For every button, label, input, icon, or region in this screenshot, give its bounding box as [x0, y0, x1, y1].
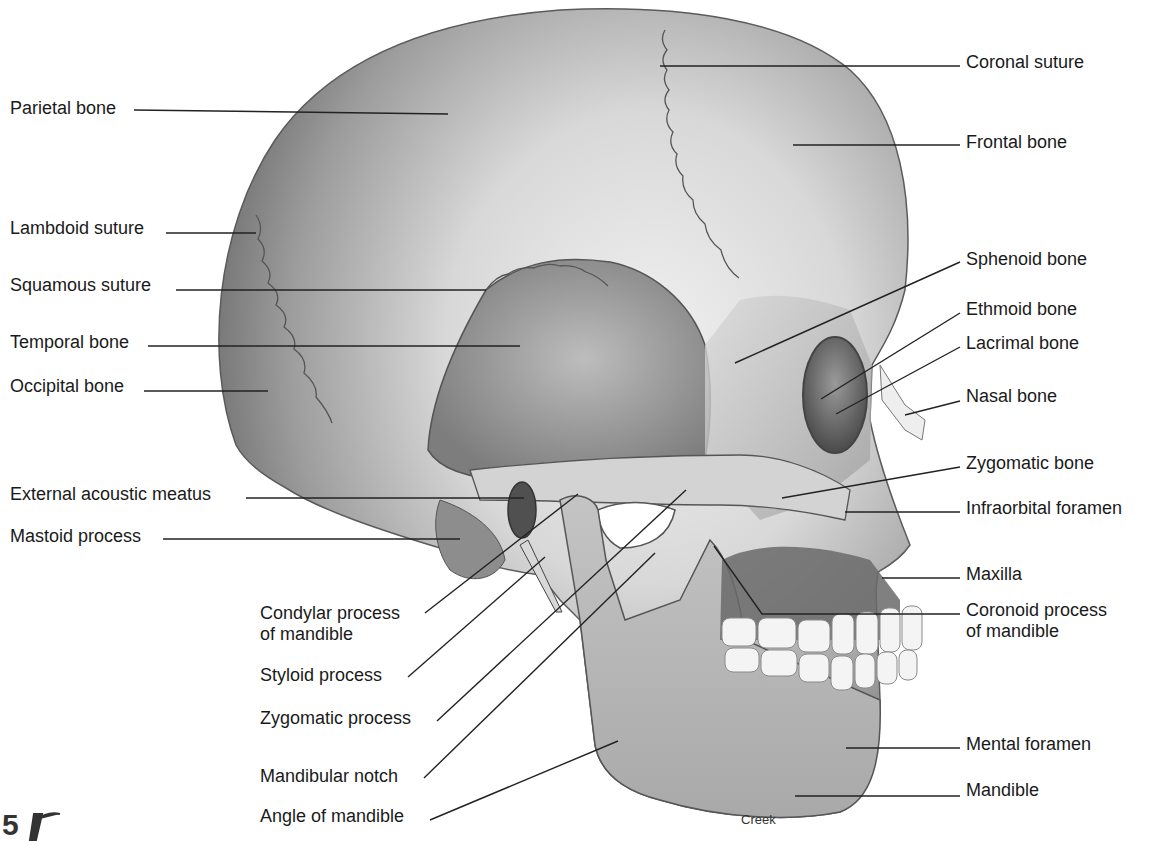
- label-angle-of-mandible: Angle of mandible: [260, 806, 404, 827]
- label-mental-foramen: Mental foramen: [966, 734, 1091, 755]
- label-temporal-bone: Temporal bone: [10, 332, 129, 353]
- label-infraorbital-foramen: Infraorbital foramen: [966, 498, 1122, 519]
- label-mandibular-notch: Mandibular notch: [260, 766, 398, 787]
- illustrator-credit: Creek: [741, 812, 776, 827]
- label-nasal-bone: Nasal bone: [966, 386, 1057, 407]
- label-styloid-process: Styloid process: [260, 665, 382, 686]
- skull-illustration: [0, 0, 1149, 841]
- label-squamous-suture: Squamous suture: [10, 275, 151, 296]
- orbit-shape: [803, 337, 867, 453]
- label-sphenoid-bone: Sphenoid bone: [966, 249, 1087, 270]
- skull-lateral-diagram: Parietal boneLambdoid sutureSquamous sut…: [0, 0, 1149, 841]
- label-mastoid-process: Mastoid process: [10, 526, 141, 547]
- label-lacrimal-bone: Lacrimal bone: [966, 333, 1079, 354]
- nasal-bone-shape: [880, 365, 925, 440]
- figure-logo-icon: [22, 810, 62, 841]
- leader-line-angle-of-mandible: [430, 741, 618, 820]
- label-coronal-suture: Coronal suture: [966, 52, 1084, 73]
- label-external-acoustic-meatus: External acoustic meatus: [10, 484, 211, 505]
- label-coronoid-process-of-mandible: Coronoid process of mandible: [966, 600, 1107, 642]
- label-occipital-bone: Occipital bone: [10, 376, 124, 397]
- label-mandible: Mandible: [966, 780, 1039, 801]
- label-condylar-process-of-mandible: Condylar process of mandible: [260, 603, 400, 645]
- label-frontal-bone: Frontal bone: [966, 132, 1067, 153]
- label-ethmoid-bone: Ethmoid bone: [966, 299, 1077, 320]
- label-lambdoid-suture: Lambdoid suture: [10, 218, 144, 239]
- label-parietal-bone: Parietal bone: [10, 98, 116, 119]
- label-zygomatic-process: Zygomatic process: [260, 708, 411, 729]
- label-zygomatic-bone: Zygomatic bone: [966, 453, 1094, 474]
- page-number-mark: 5: [2, 808, 19, 841]
- leader-line-nasal-bone: [905, 401, 960, 415]
- label-maxilla: Maxilla: [966, 564, 1022, 585]
